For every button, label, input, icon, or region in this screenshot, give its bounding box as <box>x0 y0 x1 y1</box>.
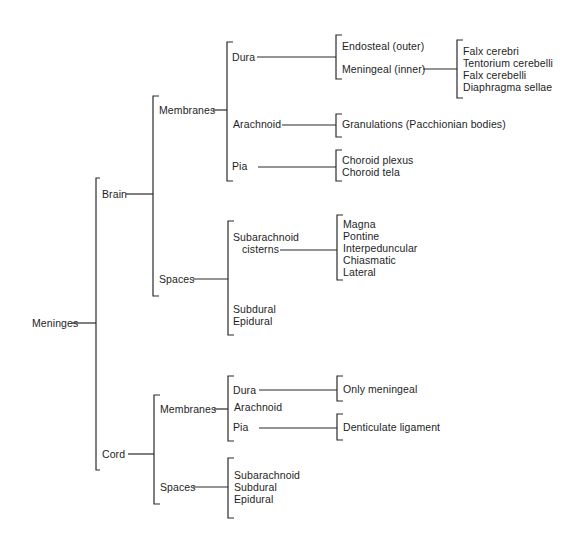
node-cord-spaces: Spaces <box>160 481 196 493</box>
node-denticulate-ligament: Denticulate ligament <box>343 421 440 433</box>
node-cord-pia: Pia <box>233 421 248 433</box>
node-meningeal: Meningeal (inner) <box>342 63 425 75</box>
node-cistern-chiasmatic: Chiasmatic <box>343 254 396 266</box>
node-subarachnoid-cisterns-line2: cisterns <box>242 243 279 255</box>
meninges-tree-diagram: Meninges Brain Membranes Dura Endosteal … <box>0 0 579 539</box>
node-cord-arachnoid: Arachnoid <box>234 401 282 413</box>
node-cord: Cord <box>102 448 125 460</box>
node-meninges: Meninges <box>32 317 78 329</box>
node-cord-membranes: Membranes <box>160 403 216 415</box>
node-cord-dura: Dura <box>233 384 256 396</box>
node-cistern-lateral: Lateral <box>343 266 376 278</box>
node-cistern-pontine: Pontine <box>343 230 379 242</box>
node-cord-epidural: Epidural <box>234 493 273 505</box>
node-choroid-plexus: Choroid plexus <box>342 154 413 166</box>
node-brain-subdural: Subdural <box>233 303 276 315</box>
node-cord-subdural: Subdural <box>234 481 277 493</box>
node-brain-arachnoid: Arachnoid <box>233 118 281 130</box>
node-brain-spaces: Spaces <box>159 273 195 285</box>
node-brain-dura: Dura <box>232 51 255 63</box>
node-brain: Brain <box>102 188 127 200</box>
node-fold-diaphragma: Diaphragma sellae <box>463 81 552 93</box>
node-choroid-tela: Choroid tela <box>342 166 400 178</box>
node-granulations: Granulations (Pacchionian bodies) <box>342 118 506 130</box>
node-cord-subarachnoid: Subarachnoid <box>234 469 300 481</box>
node-endosteal: Endosteal (outer) <box>342 40 424 52</box>
node-fold-tentorium: Tentorium cerebelli <box>463 57 553 69</box>
node-subarachnoid-cisterns-line1: Subarachnoid <box>233 231 299 243</box>
node-only-meningeal: Only meningeal <box>343 383 417 395</box>
node-brain-pia: Pia <box>232 160 247 172</box>
node-brain-membranes: Membranes <box>159 104 215 116</box>
node-cistern-interpeduncular: Interpeduncular <box>343 242 417 254</box>
node-fold-falx-cerebri: Falx cerebri <box>463 45 519 57</box>
node-brain-epidural: Epidural <box>233 315 272 327</box>
node-fold-falx-cerebelli: Falx cerebelli <box>463 69 526 81</box>
node-cistern-magna: Magna <box>343 218 376 230</box>
